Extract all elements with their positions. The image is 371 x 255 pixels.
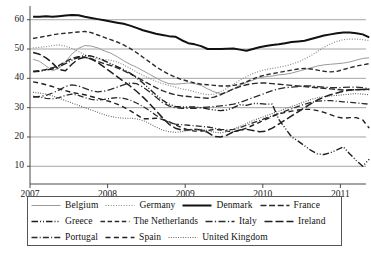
line-chart-svg (0, 0, 371, 192)
y-axis-label-30: 30 (2, 102, 24, 112)
legend-swatch-italy (205, 216, 235, 227)
chart-legend: BelgiumGermanyDenmarkFranceGreeceThe Net… (27, 196, 342, 246)
series-line-france (33, 57, 369, 99)
legend-swatch-united-kingdom (168, 232, 198, 243)
legend-label: Portugal (65, 232, 98, 242)
y-axis-label-40: 40 (2, 72, 24, 82)
legend-swatch-spain (105, 232, 135, 243)
legend-item-france[interactable]: France (260, 200, 320, 211)
legend-row-1: BelgiumGermanyDenmarkFrance (28, 197, 341, 213)
legend-item-ireland[interactable]: Ireland (264, 216, 326, 227)
y-axis-label-10: 10 (2, 160, 24, 170)
legend-swatch-ireland (264, 216, 294, 227)
legend-swatch-denmark (182, 200, 212, 211)
legend-label: Ireland (298, 216, 326, 226)
legend-item-italy[interactable]: Italy (205, 216, 257, 227)
chart-figure: 10203040506020072008200920102011 Belgium… (0, 0, 371, 255)
legend-label: United Kingdom (202, 232, 268, 242)
legend-row-2: GreeceThe NetherlandsItalyIreland (28, 213, 341, 229)
legend-item-greece[interactable]: Greece (31, 216, 93, 227)
legend-label: Belgium (65, 200, 98, 210)
series-line-the-netherlands (33, 31, 369, 86)
legend-item-belgium[interactable]: Belgium (31, 200, 98, 211)
legend-item-spain[interactable]: Spain (105, 232, 161, 243)
legend-swatch-the-netherlands (100, 216, 130, 227)
legend-item-germany[interactable]: Germany (105, 200, 175, 211)
legend-label: Italy (239, 216, 257, 226)
legend-swatch-france (260, 200, 290, 211)
legend-swatch-germany (105, 200, 135, 211)
legend-item-united-kingdom[interactable]: United Kingdom (168, 232, 268, 243)
series-line-italy (33, 83, 369, 108)
y-axis-label-60: 60 (2, 14, 24, 24)
legend-label: The Netherlands (134, 216, 199, 226)
legend-swatch-belgium (31, 200, 61, 211)
series-line-denmark (33, 15, 369, 51)
legend-item-denmark[interactable]: Denmark (182, 200, 252, 211)
series-line-spain (33, 82, 369, 132)
legend-label: Greece (65, 216, 93, 226)
chart-plot-area: 10203040506020072008200920102011 (0, 0, 371, 192)
legend-item-portugal[interactable]: Portugal (31, 232, 98, 243)
legend-label: Denmark (216, 200, 252, 210)
legend-label: Germany (139, 200, 175, 210)
legend-row-3: PortugalSpainUnited Kingdom (28, 229, 341, 245)
legend-swatch-greece (31, 216, 61, 227)
legend-label: Spain (139, 232, 161, 242)
legend-item-the-netherlands[interactable]: The Netherlands (100, 216, 199, 227)
y-axis-label-20: 20 (2, 131, 24, 141)
y-axis-label-50: 50 (2, 43, 24, 53)
series-line-greece (33, 55, 369, 166)
legend-label: France (294, 200, 320, 210)
legend-swatch-portugal (31, 232, 61, 243)
